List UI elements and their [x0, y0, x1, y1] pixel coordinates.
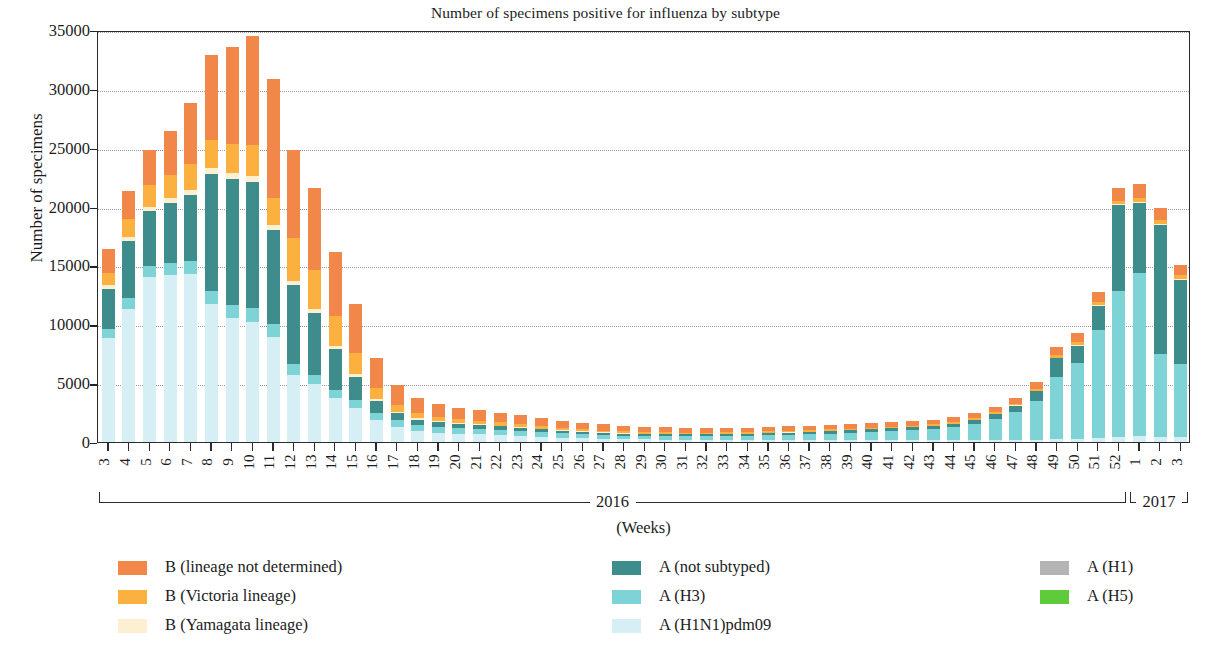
bar-segment: [349, 304, 362, 353]
y-axis-tick-label: 35000: [24, 23, 90, 40]
x-axis-tick-label: 5: [139, 447, 154, 477]
bar-week-38: [824, 425, 837, 442]
y-axis-tick-label: 0: [24, 435, 90, 452]
bar-week-20: [452, 408, 465, 442]
legend-color-swatch: [612, 561, 641, 575]
bar-segment: [1030, 440, 1043, 442]
bar-segment: [824, 434, 837, 441]
bar-segment: [1071, 333, 1084, 342]
bar-week-41: [885, 422, 898, 442]
y-axis-tick-labels: 05000100001500020000250003000035000: [18, 0, 90, 645]
bar-segment: [184, 274, 197, 442]
bar-week-1: [1133, 184, 1146, 442]
bar-segment: [287, 375, 300, 442]
legend-item[interactable]: A (H3): [612, 582, 771, 611]
year-brackets: 20162017: [97, 492, 1190, 514]
bar-segment: [1112, 437, 1125, 442]
bar-segment: [391, 405, 404, 412]
bar-segment: [1071, 439, 1084, 442]
bar-week-52: [1112, 188, 1125, 442]
bar-segment: [164, 263, 177, 275]
bar-segment: [308, 188, 321, 270]
bar-segment: [514, 436, 527, 442]
bar-week-34: [741, 428, 754, 442]
bar-week-10: [246, 36, 259, 442]
legend-label: B (Yamagata lineage): [165, 617, 308, 634]
bar-segment: [102, 289, 115, 329]
bar-segment: [1154, 208, 1167, 220]
bar-segment: [246, 322, 259, 442]
bar-segment: [865, 440, 878, 442]
x-axis-tick-label: 52: [1108, 447, 1123, 477]
bar-segment: [226, 47, 239, 144]
legend-item[interactable]: B (Yamagata lineage): [118, 611, 342, 640]
x-axis-title: (Weeks): [97, 518, 1190, 538]
bar-segment: [287, 238, 300, 282]
bar-segment: [452, 408, 465, 420]
bar-segment: [246, 182, 259, 308]
bar-segment: [122, 241, 135, 299]
legend-item[interactable]: B (Victoria lineage): [118, 582, 342, 611]
bar-week-33: [720, 428, 733, 442]
bar-week-24: [535, 418, 548, 442]
bar-segment: [947, 427, 960, 440]
bar-segment: [906, 440, 919, 442]
bar-segment: [143, 211, 156, 266]
plot-area: [97, 31, 1190, 443]
bar-segment: [226, 144, 239, 173]
bar-segment: [1154, 354, 1167, 436]
bar-segment: [143, 185, 156, 206]
x-axis-tick-label: 21: [469, 447, 484, 477]
bar-segment: [1050, 439, 1063, 442]
legend-item[interactable]: A (H1N1)pdm09: [612, 611, 771, 640]
bar-segment: [102, 273, 115, 286]
legend-item[interactable]: A (not subtyped): [612, 553, 771, 582]
bar-segment: [349, 377, 362, 401]
bar-segment: [1050, 377, 1063, 439]
bar-segment: [1174, 280, 1187, 365]
bar-segment: [226, 305, 239, 319]
bar-week-32: [700, 428, 713, 442]
x-axis-tick-label: 11: [262, 447, 277, 477]
bar-week-3: [102, 249, 115, 442]
bar-segment: [1133, 436, 1146, 442]
bar-week-3: [1174, 265, 1187, 442]
legend-label: A (H1): [1087, 559, 1133, 576]
bar-week-13: [308, 188, 321, 442]
bar-segment: [184, 103, 197, 164]
x-axis-tick-label: 24: [530, 447, 545, 477]
bar-week-50: [1071, 333, 1084, 442]
legend-label: A (H5): [1087, 588, 1133, 605]
x-axis-tick-label: 7: [180, 447, 195, 477]
bar-segment: [246, 308, 259, 322]
bar-segment: [205, 291, 218, 304]
legend-item[interactable]: B (lineage not determined): [118, 553, 342, 582]
legend-color-swatch: [118, 619, 147, 633]
bar-segment: [267, 79, 280, 198]
legend: B (lineage not determined)B (Victoria li…: [0, 553, 1211, 645]
bar-segment: [679, 440, 692, 442]
bar-segment: [597, 439, 610, 442]
x-axis-tick-labels: 3456789101112131415161718192021222324252…: [97, 452, 1190, 492]
bar-segment: [184, 164, 197, 190]
bar-segment: [947, 440, 960, 442]
y-axis-tick-mark: [90, 208, 97, 209]
bar-segment: [246, 36, 259, 145]
bar-segment: [989, 419, 1002, 440]
bar-week-6: [164, 131, 177, 442]
y-axis-tick-mark: [90, 266, 97, 267]
bar-segment: [1050, 347, 1063, 355]
bar-segment: [143, 266, 156, 277]
bar-week-2: [1154, 208, 1167, 442]
bar-segment: [1092, 438, 1105, 442]
x-axis-tick-label: 19: [427, 447, 442, 477]
bar-week-16: [370, 358, 383, 442]
y-axis-tick-label: 20000: [24, 200, 90, 217]
legend-item[interactable]: A (H5): [1040, 582, 1133, 611]
bar-segment: [782, 440, 795, 442]
legend-item[interactable]: A (H1): [1040, 553, 1133, 582]
bar-week-19: [432, 404, 445, 442]
bar-segment: [287, 150, 300, 238]
gridline: [98, 150, 1189, 151]
bar-week-49: [1050, 347, 1063, 442]
